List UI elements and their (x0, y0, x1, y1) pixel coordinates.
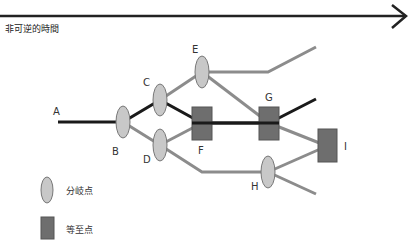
branch-point-e (195, 56, 209, 88)
node-label-i: I (344, 141, 347, 152)
branch-point-d (153, 129, 167, 161)
node-label-a: A (53, 106, 60, 117)
node-label-c: C (143, 77, 150, 88)
legend: 分岐点 等至点 (41, 177, 93, 239)
node-label-g: G (265, 92, 273, 103)
branch-point-b (116, 106, 130, 138)
legend-convergence-icon (41, 217, 54, 239)
alt-paths (123, 47, 327, 194)
legend-branch-icon (41, 177, 53, 203)
time-arrow (0, 5, 406, 28)
branch-point-h (261, 156, 275, 188)
node-label-h: H (251, 181, 259, 192)
legend-branch-label: 分岐点 (66, 185, 93, 196)
tem-diagram: 非可逆的時間 A B C D E F G H I 分岐点 (0, 0, 411, 246)
node-label-b: B (112, 146, 119, 157)
path-e-top (202, 47, 316, 72)
node-label-d: D (143, 154, 151, 165)
time-axis-label: 非可逆的時間 (5, 23, 59, 34)
node-label-e: E (192, 44, 198, 55)
branch-point-c (153, 84, 167, 116)
convergence-point-i (318, 129, 337, 162)
node-label-f: F (198, 145, 204, 156)
legend-convergence-label: 等至点 (66, 224, 93, 235)
